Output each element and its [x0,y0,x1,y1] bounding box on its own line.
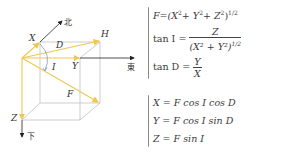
equation-tan-d: tan D = Y X [153,55,202,79]
field-vectors [22,41,99,119]
axes [22,21,134,137]
vector-f [22,58,98,102]
label-north: 北 [64,18,72,27]
label-i: I [51,62,56,72]
equation-f: F=(X2+ Y2+ Z2)1/2 [153,9,238,21]
geomagnetic-components-diagram: 北 東 下 X H D Y I F Z [0,0,141,155]
label-h: H [100,29,109,39]
brace-group1 [148,7,149,79]
label-d: D [55,40,63,50]
label-f: F [66,89,74,99]
brace-group2 [148,95,149,147]
label-y: Y [72,61,79,71]
equation-x: X = F cos I cos D [153,97,236,108]
inclination-arc-icon [40,44,48,70]
label-down: 下 [27,132,35,141]
equation-y: Y = F cos I sin D [153,115,233,126]
label-east: 東 [127,62,135,72]
label-z: Z [10,113,18,123]
label-x: X [28,33,36,43]
equation-z: Z = F sin I [153,133,204,144]
equation-tan-i: tan I = Z (X² + Y²)1/2 [153,26,241,52]
north-axis [40,21,62,42]
